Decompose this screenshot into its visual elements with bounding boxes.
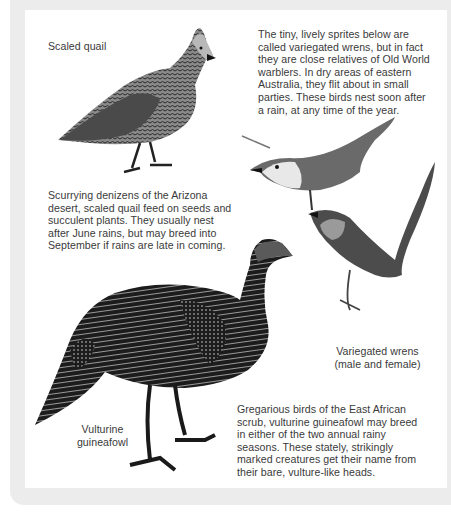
caption-vulturine-guineafowl: Vulturine guineafowl bbox=[60, 423, 145, 448]
caption-scaled-quail: Scaled quail bbox=[48, 40, 106, 53]
paragraph-wrens: The tiny, lively sprites below are calle… bbox=[258, 28, 430, 116]
paragraph-quail: Scurrying denizens of the Arizona desert… bbox=[48, 189, 231, 252]
caption-variegated-wrens: Variegated wrens (male and female) bbox=[305, 345, 450, 370]
variegated-wren-female-illustration bbox=[242, 117, 395, 210]
paragraph-guineafowl: Gregarious birds of the East African scr… bbox=[237, 403, 417, 479]
